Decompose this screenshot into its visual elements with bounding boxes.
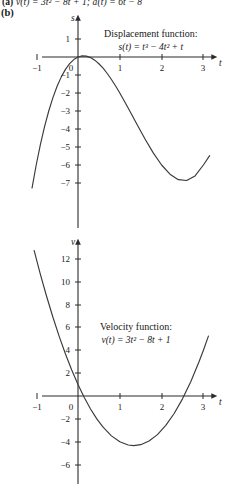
velocity-ytick-12: 12: [61, 254, 70, 264]
answer-line-a: (a) v(t) = 3t² − 8t + 1; a(t) = 6t − 8: [2, 0, 142, 7]
velocity-origin-label: 0: [69, 402, 74, 412]
displacement-ytick--6: −6: [60, 160, 70, 170]
displacement-x-axis-label: t: [219, 58, 222, 68]
velocity-caption-formula: v(t) = 3t² − 8t + 1: [100, 334, 172, 347]
velocity-xtick-3: 3: [201, 402, 206, 412]
velocity-y-axis-label: v: [71, 237, 76, 247]
velocity-ytick-10: 10: [61, 277, 71, 287]
velocity-ytick--2: −2: [60, 414, 70, 424]
velocity-ytick-8: 8: [66, 300, 71, 310]
figure-page: (a) v(t) = 3t² − 8t + 1; a(t) = 6t − 8 (…: [0, 0, 238, 491]
displacement-caption-title: Displacement function:: [104, 27, 198, 41]
displacement-xtick-3: 3: [201, 63, 206, 73]
velocity-ytick-6: 6: [66, 322, 71, 332]
displacement-ytick--2: −2: [60, 88, 70, 98]
velocity-ytick-2: 2: [66, 368, 71, 378]
displacement-caption-formula: s(t) = t³ − 4t² + t: [104, 41, 198, 54]
velocity-x-axis-label: t: [219, 397, 222, 407]
displacement-curve: [32, 56, 210, 188]
velocity-caption: Velocity function: v(t) = 3t² − 8t + 1: [100, 320, 172, 346]
displacement-ytick--3: −3: [60, 106, 70, 116]
velocity-svg: t v −1 1 2 3 0: [0, 236, 238, 491]
velocity-caption-title: Velocity function:: [100, 320, 172, 334]
displacement-ytick--7: −7: [60, 178, 70, 188]
answer-line-a-label: (a): [2, 0, 13, 7]
velocity-ytick--6: −6: [60, 460, 70, 470]
displacement-ytick--4: −4: [60, 124, 70, 134]
velocity-xtick--1: −1: [32, 402, 42, 412]
displacement-xtick-2: 2: [160, 63, 165, 73]
displacement-ytick-1: 1: [66, 34, 71, 44]
velocity-ytick--4: −4: [60, 437, 70, 447]
velocity-xtick-1: 1: [118, 402, 123, 412]
velocity-xtick-2: 2: [160, 402, 165, 412]
velocity-ytick-4: 4: [66, 345, 71, 355]
displacement-ytick--5: −5: [60, 142, 70, 152]
velocity-chart: t v −1 1 2 3 0: [0, 236, 238, 491]
displacement-xtick-1: 1: [118, 63, 123, 73]
displacement-caption: Displacement function: s(t) = t³ − 4t² +…: [104, 27, 198, 53]
displacement-xtick--1: −1: [32, 63, 42, 73]
answer-line-a-text: v(t) = 3t² − 8t + 1; a(t) = 6t − 8: [16, 0, 142, 7]
displacement-y-axis-label: s: [71, 13, 75, 23]
